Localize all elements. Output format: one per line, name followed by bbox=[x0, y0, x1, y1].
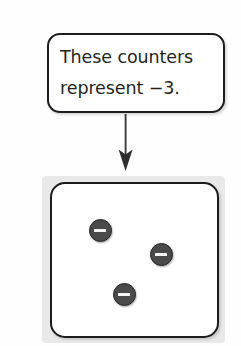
down-arrow-svg bbox=[113, 114, 139, 172]
down-arrow-icon bbox=[113, 114, 139, 172]
minus-sign-icon bbox=[155, 253, 168, 256]
callout-text: These counters represent −3. bbox=[60, 42, 217, 104]
callout-bubble: These counters represent −3. bbox=[47, 33, 225, 113]
negative-counter[interactable] bbox=[89, 219, 112, 242]
negative-counter[interactable] bbox=[150, 243, 173, 266]
counter-box bbox=[50, 182, 219, 338]
negative-counter[interactable] bbox=[113, 283, 136, 306]
illustration-canvas: These counters represent −3. bbox=[0, 0, 241, 346]
minus-sign-icon bbox=[118, 293, 131, 296]
minus-sign-icon bbox=[94, 229, 107, 232]
